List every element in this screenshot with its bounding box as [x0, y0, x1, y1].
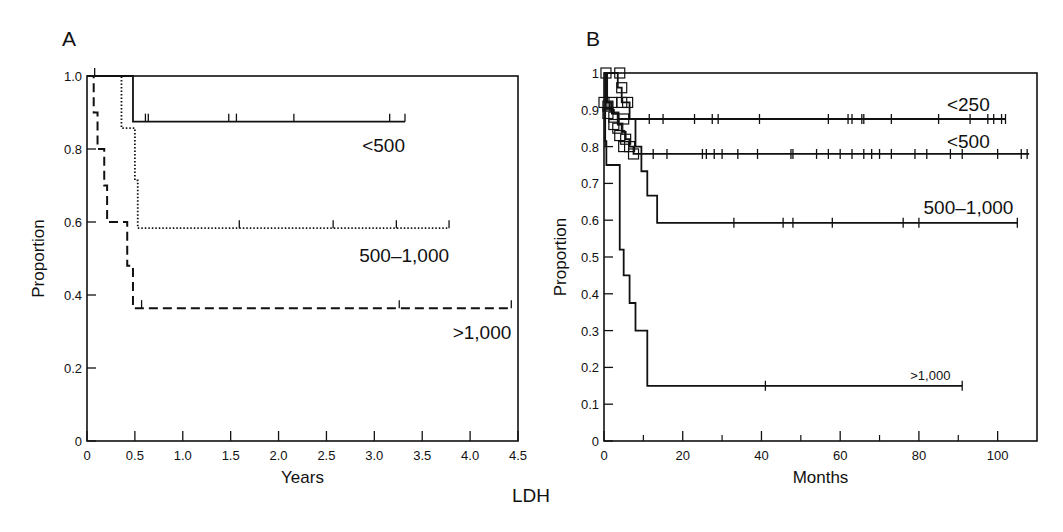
- km-curve: >1,000: [87, 76, 511, 343]
- km-step-line: [604, 73, 1006, 119]
- panel-label: B: [586, 27, 600, 50]
- y-tick-label: 1: [592, 66, 599, 81]
- y-tick-label: 0.2: [581, 360, 599, 375]
- panel-label: A: [62, 27, 76, 50]
- x-tick-label: 3.0: [365, 448, 383, 463]
- x-tick-label: 2.0: [270, 448, 288, 463]
- y-tick-label: 1.0: [64, 69, 82, 84]
- km-curve: <500: [604, 73, 1029, 159]
- y-axis-label: Proportion: [29, 219, 48, 297]
- y-tick-label: 0.8: [64, 142, 82, 157]
- y-tick-label: 0.8: [581, 140, 599, 155]
- y-tick-label: 0: [592, 434, 599, 449]
- x-tick-label: 40: [754, 448, 768, 463]
- series-label: >1,000: [453, 322, 512, 343]
- y-tick-label: 0.7: [581, 176, 599, 191]
- x-tick-label: 1.5: [222, 448, 240, 463]
- x-tick-label: 60: [833, 448, 847, 463]
- y-tick-label: 0.4: [581, 287, 599, 302]
- y-tick-label: 0.5: [581, 250, 599, 265]
- y-tick-label: 0.4: [64, 288, 82, 303]
- x-tick-label: 0: [600, 448, 607, 463]
- plot-frame: [87, 76, 518, 441]
- series-label: 500–1,000: [924, 197, 1014, 218]
- x-tick-label: 80: [912, 448, 926, 463]
- figure: A00.20.40.60.81.000.51.01.52.02.53.03.54…: [0, 0, 1063, 532]
- km-curve: <500: [87, 68, 405, 156]
- series-label: 500–1,000: [359, 245, 449, 266]
- series-label: <500: [362, 135, 405, 156]
- series-label: >1,000: [910, 368, 950, 383]
- shared-x-label: LDH: [512, 485, 550, 506]
- km-step-line: [87, 76, 405, 122]
- y-tick-label: 0.2: [64, 361, 82, 376]
- x-tick-label: 3.5: [413, 448, 431, 463]
- x-tick-label: 4.0: [461, 448, 479, 463]
- km-step-line: [604, 73, 962, 386]
- km-curve: 500–1,000: [87, 76, 449, 266]
- x-tick-label: 4.5: [509, 448, 527, 463]
- km-step-line: [87, 76, 511, 308]
- x-axis-label: Months: [793, 468, 849, 487]
- x-tick-label: 20: [675, 448, 689, 463]
- x-tick-label: 0.5: [126, 448, 144, 463]
- x-axis-label: Years: [281, 468, 324, 487]
- km-curve: <250: [604, 73, 1006, 124]
- km-curve: >1,000: [604, 73, 962, 391]
- y-axis-label: Proportion: [551, 218, 570, 296]
- y-tick-label: 0: [75, 434, 82, 449]
- y-tick-label: 0.6: [64, 215, 82, 230]
- series-label: <500: [947, 131, 990, 152]
- series-label: <250: [947, 94, 990, 115]
- x-tick-label: 1.0: [174, 448, 192, 463]
- y-tick-label: 0.1: [581, 397, 599, 412]
- panel-a-chart: A00.20.40.60.81.000.51.01.52.02.53.03.54…: [29, 27, 527, 487]
- panel-b-chart: B00.10.20.30.40.50.60.70.80.910204060801…: [551, 27, 1037, 487]
- x-tick-label: 100: [987, 448, 1009, 463]
- y-tick-label: 0.3: [581, 324, 599, 339]
- x-tick-label: 2.5: [317, 448, 335, 463]
- x-tick-label: 0: [83, 448, 90, 463]
- y-tick-label: 0.9: [581, 103, 599, 118]
- y-tick-label: 0.6: [581, 213, 599, 228]
